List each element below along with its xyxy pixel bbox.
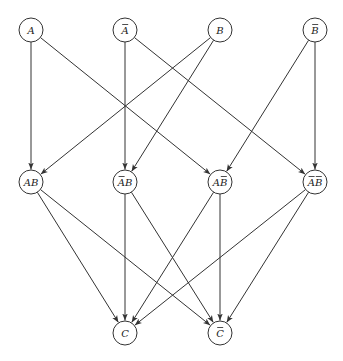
- node-B: B: [208, 18, 232, 42]
- node-label: AB: [23, 177, 39, 188]
- node-notB: B: [303, 18, 327, 42]
- node-label: AB: [307, 177, 323, 188]
- node-AB: AB: [19, 170, 43, 194]
- node-notA: A: [113, 18, 137, 42]
- node-notA_notB: AB: [303, 170, 327, 194]
- node-label: AB: [212, 177, 228, 188]
- edge-notA_notB-to-notC: [227, 192, 309, 322]
- edges-layer: [31, 38, 315, 326]
- edge-B-to-notA_B: [132, 40, 214, 171]
- probability-dag: AABBABABABABCC: [0, 0, 343, 361]
- node-label: AB: [117, 177, 133, 188]
- node-notA_B: AB: [113, 170, 137, 194]
- edge-AB-to-C: [37, 192, 118, 322]
- node-C: C: [113, 321, 137, 345]
- node-label: B: [310, 25, 318, 36]
- node-A: A: [19, 18, 43, 42]
- node-label: A: [26, 25, 34, 36]
- edge-notB-to-A_notB: [227, 40, 309, 171]
- node-label: C: [121, 328, 129, 339]
- node-label: C: [216, 328, 224, 339]
- edge-notA-to-notA_notB: [134, 38, 305, 175]
- node-label: B: [215, 25, 223, 36]
- node-A_notB: AB: [208, 170, 232, 194]
- node-label: A: [120, 25, 128, 36]
- node-notC: C: [208, 321, 232, 345]
